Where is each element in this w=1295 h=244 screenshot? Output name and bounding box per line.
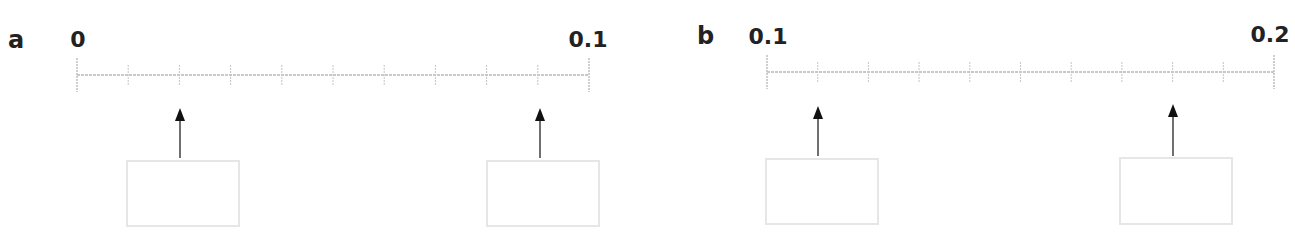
answer-box-b-1[interactable] [765, 158, 879, 225]
arrow-b-1 [813, 106, 823, 156]
number-line-b [0, 0, 1295, 244]
number-line-b-axis [767, 55, 1274, 89]
answer-box-b-2[interactable] [1119, 157, 1233, 225]
panel-b: b 0.1 0.2 [0, 0, 1295, 244]
arrow-b-2 [1168, 104, 1178, 156]
